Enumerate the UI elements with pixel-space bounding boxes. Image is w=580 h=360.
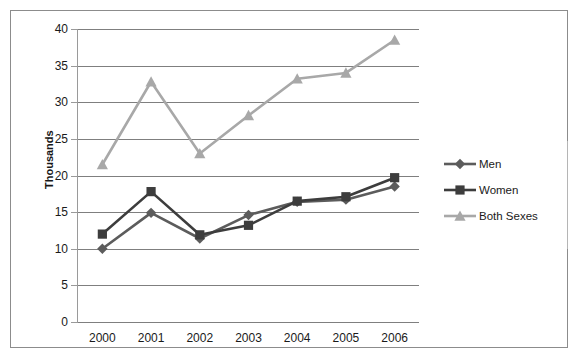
y-tick-label-20: 20 <box>55 169 68 183</box>
legend-swatch-diamond-icon <box>443 157 477 171</box>
legend-item-both-sexes[interactable]: Both Sexes <box>443 203 555 229</box>
x-tick-label-2003: 2003 <box>235 331 262 345</box>
legend-item-men[interactable]: Men <box>443 151 555 177</box>
data-point-men-2006 <box>389 181 399 191</box>
x-tick-label-2000: 2000 <box>89 331 116 345</box>
data-point-women-2005 <box>341 192 350 201</box>
legend-marker-square-icon <box>455 185 464 194</box>
x-tick-label-2002: 2002 <box>186 331 213 345</box>
y-axis-title: Thousands <box>29 39 45 189</box>
y-tick-label-40: 40 <box>55 22 68 36</box>
data-point-women-2004 <box>293 197 302 206</box>
data-point-women-2006 <box>390 173 399 182</box>
y-tick-40 <box>71 29 78 30</box>
data-point-women-2000 <box>98 230 107 239</box>
legend-label-1: Women <box>477 184 518 196</box>
legend-label-0: Men <box>477 158 501 170</box>
y-axis-title-text: Thousands <box>43 130 55 189</box>
legend-marker-diamond-icon <box>455 159 465 169</box>
data-point-women-2001 <box>146 187 155 196</box>
series-women <box>98 173 399 239</box>
legend-label-2: Both Sexes <box>477 210 538 222</box>
legend-swatch-triangle-icon <box>443 209 477 223</box>
legend-item-women[interactable]: Women <box>443 177 555 203</box>
data-point-women-2003 <box>244 221 253 230</box>
y-tick-0 <box>71 322 78 323</box>
y-tick-label-5: 5 <box>61 278 68 292</box>
legend-divider <box>567 141 568 249</box>
x-tick-label-2001: 2001 <box>138 331 165 345</box>
y-tick-label-10: 10 <box>55 242 68 256</box>
data-point-women-2002 <box>195 230 204 239</box>
y-tick-10 <box>71 249 78 250</box>
y-tick-label-35: 35 <box>55 59 68 73</box>
gridline-0 <box>78 322 419 323</box>
legend-swatch-square-icon <box>443 183 477 197</box>
y-tick-30 <box>71 102 78 103</box>
y-tick-25 <box>71 139 78 140</box>
x-tick-label-2004: 2004 <box>284 331 311 345</box>
y-tick-15 <box>71 212 78 213</box>
series-line-2 <box>102 40 394 165</box>
y-tick-label-15: 15 <box>55 205 68 219</box>
chart-figure: Thousands 0510152025303540 2000200120022… <box>10 10 568 348</box>
y-tick-5 <box>71 285 78 286</box>
series-lines <box>78 29 419 322</box>
data-point-both-sexes-2000 <box>97 159 108 169</box>
x-tick-label-2005: 2005 <box>333 331 360 345</box>
data-point-both-sexes-2001 <box>145 76 156 86</box>
series-both-sexes <box>97 34 400 169</box>
chart-legend: MenWomenBoth Sexes <box>443 151 555 229</box>
y-tick-35 <box>71 66 78 67</box>
x-tick-label-2006: 2006 <box>381 331 408 345</box>
plot-area: 0510152025303540 20002001200220032004200… <box>78 29 419 322</box>
data-point-men-2003 <box>243 210 253 220</box>
y-tick-label-30: 30 <box>55 95 68 109</box>
y-tick-20 <box>71 176 78 177</box>
data-point-both-sexes-2006 <box>389 34 400 44</box>
y-tick-label-25: 25 <box>55 132 68 146</box>
y-tick-label-0: 0 <box>61 315 68 329</box>
